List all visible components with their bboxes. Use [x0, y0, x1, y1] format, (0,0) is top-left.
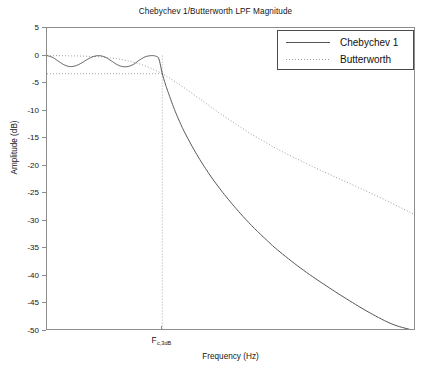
y-tick-label: -50 [27, 326, 39, 335]
legend-entry-chebychev-1: Chebychev 1 [278, 33, 415, 51]
y-tick-label: -15 [27, 133, 39, 142]
x-tick-label: Fc,3dB [152, 335, 171, 345]
y-tick-label: -10 [27, 105, 39, 114]
plot-svg [47, 28, 415, 330]
y-axis-tick-group: 50-5-10-15-20-25-30-35-40-45-50 [0, 27, 46, 330]
x-axis-tick-group: Fc,3dB [46, 330, 415, 352]
figure-canvas: Chebychev 1/Butterworth LPF Magnitude Am… [0, 0, 431, 378]
legend-box: Chebychev 1 Butterworth [277, 30, 414, 70]
legend-label: Butterworth [340, 54, 391, 65]
y-tick-label: -45 [27, 298, 39, 307]
solid-line-icon [286, 37, 330, 47]
y-tick-label: -40 [27, 270, 39, 279]
y-tick-label: -20 [27, 160, 39, 169]
dotted-line-icon [286, 54, 330, 64]
chebychev-1-curve [47, 56, 415, 330]
page-title: Chebychev 1/Butterworth LPF Magnitude [0, 7, 431, 16]
y-tick-label: -35 [27, 243, 39, 252]
y-tick-label: -30 [27, 215, 39, 224]
butterworth-curve [47, 56, 415, 216]
y-tick-label: -5 [32, 78, 39, 87]
legend-entry-butterworth: Butterworth [278, 50, 415, 68]
y-tick-label: 0 [35, 50, 39, 59]
y-tick-label: 5 [35, 23, 39, 32]
legend-label: Chebychev 1 [340, 37, 398, 48]
x-tick-mark [161, 326, 162, 330]
plot-area [46, 27, 415, 330]
x-axis-title: Frequency (Hz) [46, 352, 415, 361]
y-tick-label: -25 [27, 188, 39, 197]
